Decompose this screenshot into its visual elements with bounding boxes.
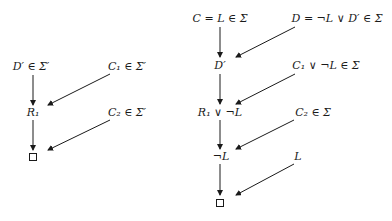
node-l: L bbox=[294, 151, 301, 163]
node-c-eq-l-in-sigma: C = L ∈ Σ bbox=[193, 13, 248, 25]
empty-clause-box-icon bbox=[216, 199, 224, 207]
node-c2-in-sigma-prime: C₂ ∈ Σ′ bbox=[108, 107, 146, 119]
arrow-c1_in_sigma_prime-to-r1 bbox=[48, 74, 110, 105]
arrow-c1_or_notl_in_sigma-to-r1_or_notl bbox=[236, 74, 295, 104]
node-notl: ¬L bbox=[213, 151, 230, 163]
node-c1-in-sigma-prime: C₁ ∈ Σ′ bbox=[108, 61, 146, 73]
node-d-prime-in-sigma-prime: D′ ∈ Σ′ bbox=[13, 61, 50, 73]
node-r1-or-notl: R₁ ∨ ¬L bbox=[198, 107, 242, 119]
arrow-l-to-empty_clause_right bbox=[236, 164, 294, 195]
node-d-prime: D′ bbox=[214, 60, 225, 72]
node-d-eq-notl-or-dprime: D = ¬L ∨ D′ ∈ Σ bbox=[292, 13, 383, 25]
node-r1: R₁ bbox=[27, 107, 40, 119]
edges-layer bbox=[0, 0, 392, 221]
node-c1-or-notl-in-sigma: C₁ ∨ ¬L ∈ Σ bbox=[292, 60, 359, 72]
arrow-d_eq_notl_or_dprime-to-d_prime bbox=[236, 27, 295, 57]
arrow-c2_in_sigma-to-notl bbox=[236, 120, 294, 149]
node-c2-in-sigma: C₂ ∈ Σ bbox=[295, 107, 331, 119]
arrow-c2_in_sigma_prime-to-empty_clause bbox=[48, 120, 110, 150]
empty-clause-box-icon bbox=[29, 153, 37, 161]
